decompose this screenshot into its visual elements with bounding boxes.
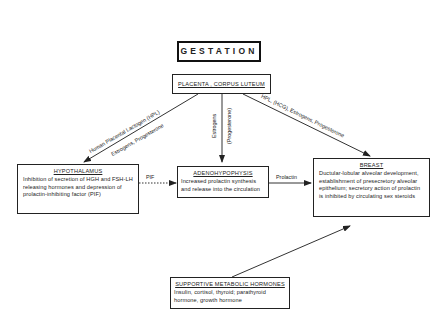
arrow-placenta-to-breast [243, 94, 370, 156]
breast-box: BREAST Ductular-lobular alveolar develop… [313, 158, 430, 217]
supportive-heading: SUPPORTIVE METABOLIC HORMONES [171, 281, 289, 287]
supportive-text: Insulin, cortisol, thyroid; parathyroid … [171, 287, 289, 304]
placenta-label: PLACENTA , CORPUS LUTEUM [173, 75, 270, 94]
adenohypophysis-text: Increased prolactin synthesis and releas… [178, 176, 268, 193]
hypothalamus-box: HYPOTHALAMUS Inhibition of secretion of … [17, 164, 139, 214]
arrow-supportive-to-breast [232, 226, 350, 277]
label-prolactin: Prolactin [276, 174, 297, 180]
supportive-hormones-box: SUPPORTIVE METABOLIC HORMONES Insulin, c… [170, 277, 290, 309]
page-title: GESTATION [180, 46, 257, 56]
title-box: GESTATION [177, 41, 261, 62]
adenohypophysis-box: ADENOHYPOPHYSIS Increased prolactin synt… [177, 166, 269, 198]
label-pif: PIF [146, 174, 154, 180]
breast-text: Ductular-lobular alveolar development, e… [314, 168, 429, 200]
arrow-placenta-to-hypothalamus [84, 94, 198, 162]
label-progesterone-center: (Progesterone) [226, 108, 232, 144]
placenta-box: PLACENTA , CORPUS LUTEUM [172, 74, 271, 94]
hypothalamus-text: Inhibition of secretion of HGH and FSH-L… [18, 174, 138, 199]
label-estrogens-center: Estrogens [211, 114, 217, 138]
